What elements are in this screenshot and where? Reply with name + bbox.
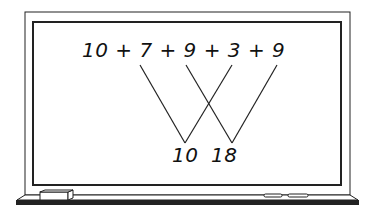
pairing-lines: [140, 65, 277, 143]
chalkboard-drawing: [0, 0, 375, 215]
expression-text: 10 + 7 + 9 + 3 + 9: [82, 38, 285, 62]
sum-left: 10: [172, 143, 198, 167]
eraser-icon: [40, 190, 73, 200]
sum-right: 18: [211, 143, 237, 167]
